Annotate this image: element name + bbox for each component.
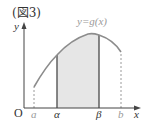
function-label: y=g(x) — [76, 15, 107, 28]
y-axis-arrow-icon — [22, 22, 27, 29]
x-mark-b: b — [118, 108, 124, 120]
y-axis-label: y — [13, 20, 19, 32]
function-graph-figure: (図3) y y=g(x) O a α β b x — [0, 0, 149, 128]
x-mark-alpha: α — [54, 108, 60, 120]
x-axis-label: x — [133, 108, 139, 120]
x-mark-beta: β — [95, 108, 102, 120]
figure-title: (図3) — [12, 6, 41, 20]
origin-label: O — [14, 106, 23, 120]
x-mark-a: a — [31, 108, 37, 120]
shaded-area-alpha-beta — [57, 34, 99, 108]
